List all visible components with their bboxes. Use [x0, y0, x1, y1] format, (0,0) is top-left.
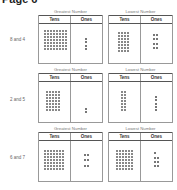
tens-rod	[59, 30, 61, 50]
tens-rod	[121, 32, 123, 52]
section-1: 8 and 4 Greatest Number Tens Ones Lowest…	[0, 9, 177, 63]
ones-cube	[84, 154, 86, 156]
ones-cell	[140, 141, 172, 181]
tens-rod	[124, 32, 126, 52]
tens-rod	[47, 150, 49, 170]
ones-header: Ones	[70, 16, 102, 23]
tens-rod	[125, 150, 127, 170]
tens-header: Tens	[109, 16, 140, 23]
tens-rod	[50, 150, 52, 170]
tens-header: Tens	[109, 133, 140, 140]
ones-cube	[154, 157, 156, 159]
tens-rod	[44, 150, 46, 170]
ones-cube	[155, 96, 157, 98]
tens-rod	[47, 30, 49, 50]
tens-rod	[62, 30, 64, 50]
tens-rod	[128, 150, 130, 170]
ones-cube	[153, 47, 155, 49]
tens-cell	[109, 141, 140, 181]
tens-rod	[59, 150, 61, 170]
tens-rod	[55, 91, 57, 111]
tens-rods	[118, 32, 129, 52]
ones-cube	[155, 103, 157, 105]
tens-rod	[121, 91, 123, 111]
tens-rod	[49, 91, 51, 111]
tens-rod	[53, 150, 55, 170]
tens-rod	[58, 91, 60, 111]
tens-rod	[119, 150, 121, 170]
ones-cubes	[84, 151, 90, 167]
ones-header: Ones	[140, 133, 172, 140]
tens-cell	[39, 82, 70, 122]
ones-header: Ones	[140, 74, 172, 81]
ones-cell	[140, 82, 172, 122]
ones-cube	[156, 34, 158, 36]
tens-cell	[109, 24, 140, 63]
tens-rod	[56, 30, 58, 50]
tens-rod	[53, 30, 55, 50]
place-value-table: Tens Ones	[108, 15, 173, 64]
row-label: 8 and 4	[10, 37, 25, 42]
ones-cubes	[155, 96, 158, 111]
ones-header: Ones	[140, 16, 172, 23]
place-value-table: Tens Ones	[38, 132, 103, 182]
ones-cell	[70, 82, 102, 122]
tens-header: Tens	[39, 133, 70, 140]
tens-rod	[116, 150, 118, 170]
place-value-table: Tens Ones	[38, 15, 103, 64]
row-label: 6 and 7	[10, 155, 25, 160]
tens-header: Tens	[39, 74, 70, 81]
row-label: 2 and 5	[10, 97, 25, 102]
lowest-number-caption: Lowest Number	[108, 126, 173, 131]
ones-header: Ones	[70, 133, 102, 140]
ones-cube	[85, 45, 87, 47]
ones-cell	[140, 24, 172, 63]
tens-rods	[116, 150, 133, 170]
tens-rod	[127, 32, 129, 52]
ones-cube	[156, 38, 158, 40]
ones-cube	[153, 38, 155, 40]
ones-cube	[87, 154, 89, 156]
greatest-number-caption: Greatest Number	[38, 67, 103, 72]
lowest-number-caption: Lowest Number	[108, 9, 173, 14]
ones-cube	[155, 106, 157, 108]
tens-rods	[44, 150, 64, 170]
ones-cube	[87, 159, 89, 161]
page-title: Page 6	[2, 0, 37, 5]
tens-rod	[124, 91, 126, 111]
tens-rod	[52, 91, 54, 111]
tens-rods	[44, 30, 67, 50]
section-2: 2 and 5 Greatest Number Tens Ones Lowest…	[0, 67, 177, 123]
ones-cube	[157, 161, 159, 163]
ones-cube	[85, 111, 87, 113]
tens-cell	[39, 24, 70, 63]
ones-cell	[70, 24, 102, 63]
ones-cube	[155, 109, 157, 111]
tens-header: Tens	[109, 74, 140, 81]
tens-rod	[131, 150, 133, 170]
section-3: 6 and 7 Greatest Number Tens Ones Lowest…	[0, 126, 177, 182]
ones-cube	[87, 165, 89, 167]
ones-cube	[154, 161, 156, 163]
ones-cube	[84, 165, 86, 167]
ones-cube	[157, 157, 159, 159]
ones-cell	[70, 141, 102, 181]
lowest-number-caption: Lowest Number	[108, 67, 173, 72]
ones-header: Ones	[70, 74, 102, 81]
ones-cube	[155, 99, 157, 101]
tens-rod	[46, 91, 48, 111]
ones-cube	[156, 43, 158, 45]
ones-cube	[153, 43, 155, 45]
tens-cell	[39, 141, 70, 181]
tens-rod	[44, 30, 46, 50]
ones-cube	[154, 152, 156, 154]
ones-cube	[156, 47, 158, 49]
ones-cube	[85, 41, 87, 43]
tens-rod	[122, 150, 124, 170]
ones-cubes	[85, 107, 88, 113]
tens-rod	[56, 150, 58, 170]
tens-rods	[46, 91, 60, 111]
ones-cube	[85, 48, 87, 50]
tens-rods	[121, 91, 126, 111]
greatest-number-caption: Greatest Number	[38, 9, 103, 14]
